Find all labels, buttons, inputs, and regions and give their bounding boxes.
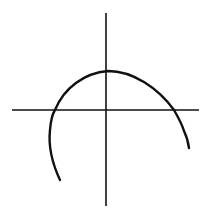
coordinate-diagram	[0, 0, 209, 218]
diagram-background	[0, 0, 209, 218]
